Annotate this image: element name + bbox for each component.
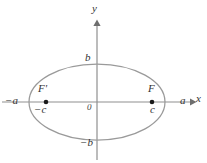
x-axis-label: x: [196, 93, 201, 104]
label-minus-b: −b: [80, 137, 93, 148]
ellipse-diagram-canvas: [0, 0, 207, 163]
label-minus-a: −a: [5, 95, 18, 106]
label-minus-c: −c: [34, 104, 46, 115]
origin-label: 0: [87, 103, 92, 112]
focus-left-label: F': [38, 83, 47, 94]
ellipse-figure: y x 0 b −b −a a F' −c F c: [0, 0, 207, 163]
label-c: c: [150, 104, 155, 115]
y-axis-arrow-icon: [93, 20, 100, 27]
focus-right-label: F: [148, 83, 155, 94]
label-a: a: [180, 95, 186, 106]
label-b: b: [85, 52, 91, 63]
y-axis-label: y: [92, 3, 97, 14]
